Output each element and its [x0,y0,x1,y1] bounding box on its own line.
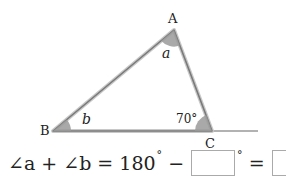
vertex-label-a: A [168,12,177,25]
answer-box-1[interactable] [191,150,235,176]
equals-sign: = [243,152,271,174]
angle-label-a: a [162,46,170,60]
degree-symbol: ° [157,149,163,162]
minus-sign: − [162,152,190,174]
degree-symbol: ° [237,149,243,162]
equation-lhs: ∠a + ∠b = 180 [8,152,156,174]
vertex-label-b: B [40,124,50,137]
answer-box-2[interactable] [272,150,286,176]
angle-label-b: b [82,112,91,126]
angle-label-c: 70° [176,113,197,125]
angle-sum-equation: ∠a + ∠b = 180 ° − ° = ° [8,148,286,178]
